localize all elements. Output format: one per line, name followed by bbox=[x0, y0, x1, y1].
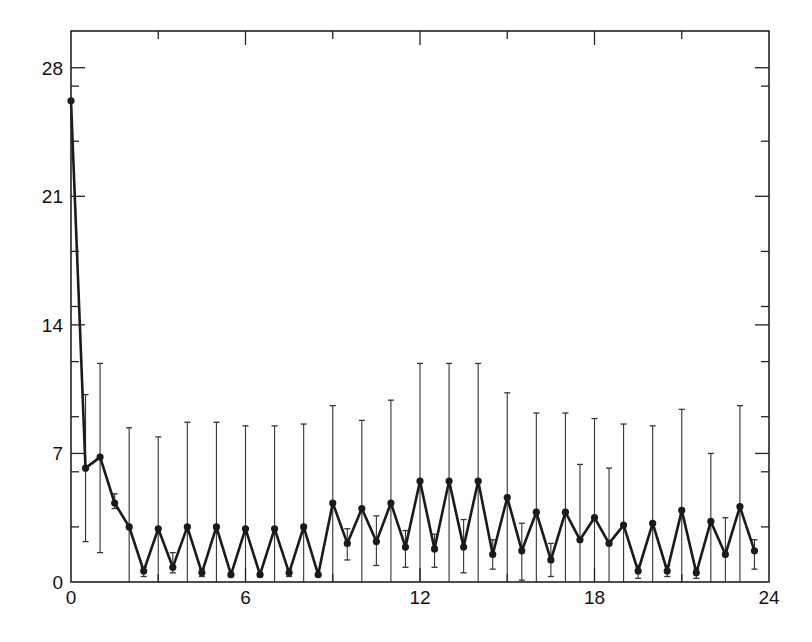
y-tick-label: 28 bbox=[42, 58, 63, 79]
data-point-marker bbox=[300, 523, 307, 530]
data-point-marker bbox=[576, 536, 583, 543]
data-point-marker bbox=[751, 547, 758, 554]
data-point-marker bbox=[460, 544, 467, 551]
x-tick-label: 18 bbox=[584, 587, 605, 608]
data-point-marker bbox=[445, 477, 452, 484]
error-bars bbox=[83, 363, 758, 582]
data-point-marker bbox=[518, 547, 525, 554]
x-tick-label: 24 bbox=[758, 587, 780, 608]
data-point-marker bbox=[111, 499, 118, 506]
y-tick-label: 7 bbox=[52, 443, 63, 464]
x-tick-label: 12 bbox=[409, 587, 430, 608]
data-point-marker bbox=[344, 540, 351, 547]
y-tick-label: 21 bbox=[42, 186, 63, 207]
data-line bbox=[71, 101, 755, 575]
data-point-marker bbox=[271, 525, 278, 532]
data-point-marker bbox=[96, 454, 103, 461]
data-point-marker bbox=[82, 465, 89, 472]
data-point-marker bbox=[242, 525, 249, 532]
data-point-marker bbox=[605, 540, 612, 547]
data-point-marker bbox=[591, 514, 598, 521]
data-point-marker bbox=[547, 556, 554, 563]
data-point-marker bbox=[475, 477, 482, 484]
y-tick-label: 0 bbox=[52, 572, 63, 593]
data-point-marker bbox=[678, 507, 685, 514]
data-point-marker bbox=[387, 499, 394, 506]
data-point-marker bbox=[722, 551, 729, 558]
data-point-marker bbox=[155, 525, 162, 532]
data-markers bbox=[67, 97, 758, 578]
x-tick-label: 0 bbox=[66, 587, 77, 608]
x-tick-label: 6 bbox=[240, 587, 251, 608]
plot-svg: 06121824 07142128 bbox=[0, 0, 812, 642]
data-point-marker bbox=[649, 520, 656, 527]
data-point-marker bbox=[489, 551, 496, 558]
data-point-marker bbox=[315, 571, 322, 578]
data-point-marker bbox=[358, 505, 365, 512]
data-point-marker bbox=[329, 499, 336, 506]
data-point-marker bbox=[286, 569, 293, 576]
data-point-marker bbox=[533, 509, 540, 516]
data-point-marker bbox=[707, 518, 714, 525]
data-point-marker bbox=[693, 569, 700, 576]
data-point-marker bbox=[184, 523, 191, 530]
data-point-marker bbox=[402, 544, 409, 551]
data-point-marker bbox=[504, 494, 511, 501]
y-tick-label: 14 bbox=[42, 315, 64, 336]
data-point-marker bbox=[562, 509, 569, 516]
data-point-marker bbox=[198, 569, 205, 576]
data-point-marker bbox=[213, 523, 220, 530]
data-point-marker bbox=[431, 545, 438, 552]
data-point-marker bbox=[664, 567, 671, 574]
x-axis-tick-labels: 06121824 bbox=[66, 587, 780, 608]
y-axis-tick-labels: 07142128 bbox=[42, 58, 64, 593]
data-point-marker bbox=[373, 538, 380, 545]
data-point-marker bbox=[140, 567, 147, 574]
data-point-marker bbox=[416, 477, 423, 484]
data-point-marker bbox=[126, 523, 133, 530]
data-point-marker bbox=[227, 571, 234, 578]
data-point-marker bbox=[635, 567, 642, 574]
data-point-marker bbox=[736, 503, 743, 510]
data-point-marker bbox=[620, 521, 627, 528]
chart-container: 06121824 07142128 bbox=[0, 0, 812, 642]
series-line bbox=[71, 101, 755, 575]
data-point-marker bbox=[169, 564, 176, 571]
data-point-marker bbox=[256, 571, 263, 578]
